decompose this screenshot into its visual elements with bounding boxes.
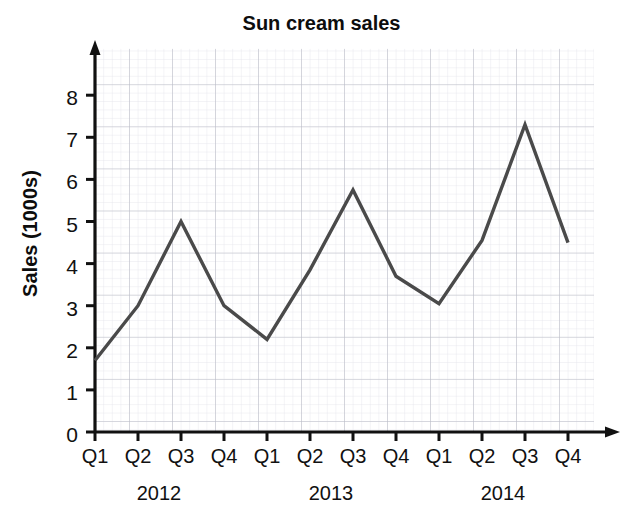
plot-area (0, 0, 643, 522)
chart-container: Sun cream sales Sales (1000s) 0 1 2 3 4 … (0, 0, 643, 522)
